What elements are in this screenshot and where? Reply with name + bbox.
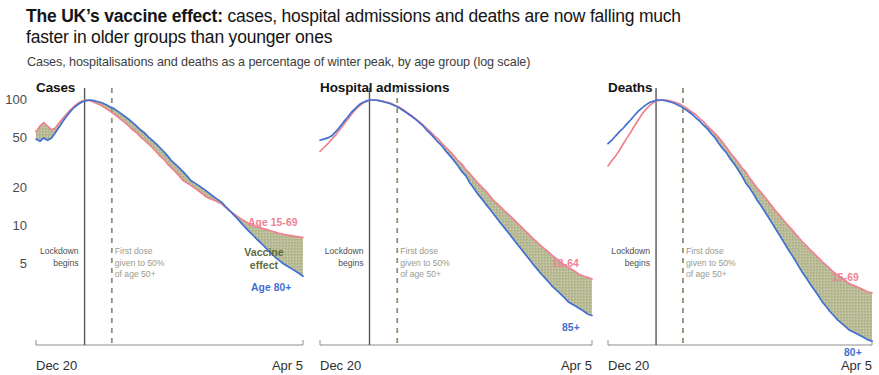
- series-label-pink: Age 15-69: [248, 217, 298, 228]
- annotation-line: Lockdown: [17, 246, 79, 258]
- chart-subtitle: Cases, hospitalisations and deaths as a …: [27, 55, 530, 69]
- panel-deaths: DeathsDec 20Apr 5LockdownbeginsFirst dos…: [600, 80, 879, 375]
- y-axis-tick-label: 50: [0, 130, 27, 145]
- annotation-line: of age 50+: [115, 269, 165, 281]
- annotation-line: given to 50%: [686, 258, 736, 270]
- annotation-line: First dose: [686, 246, 736, 258]
- y-axis-tick-label: 100: [0, 92, 27, 107]
- annotation-line: given to 50%: [400, 258, 450, 270]
- x-axis-end-label: Apr 5: [183, 358, 303, 373]
- x-axis-end-label: Apr 5: [752, 358, 872, 373]
- first-dose-annotation: First dosegiven to 50%of age 50+: [686, 246, 736, 281]
- panel-cases: Cases1005020105Dec 20Apr 5Lockdownbegins…: [0, 80, 310, 375]
- series-label-pink: 18-64: [552, 258, 579, 269]
- annotation-line: of age 50+: [400, 269, 450, 281]
- headline-lead: The UK’s vaccine effect:: [26, 6, 223, 26]
- plot-area-hospital_admissions: [310, 80, 600, 375]
- x-axis-line: [608, 340, 872, 345]
- chart-panels: Cases1005020105Dec 20Apr 5Lockdownbegins…: [0, 80, 879, 375]
- annotation-line: effect: [235, 259, 293, 272]
- lockdown-annotation: Lockdownbegins: [588, 246, 650, 269]
- annotation-line: First dose: [400, 246, 450, 258]
- y-axis-tick-label: 10: [0, 218, 27, 233]
- annotation-line: begins: [588, 258, 650, 270]
- page-title: The UK’s vaccine effect: cases, hospital…: [26, 6, 726, 48]
- series-label-pink: 15-69: [832, 272, 859, 283]
- series-label-blue: 85+: [562, 322, 580, 333]
- series-label-blue: Age 80+: [251, 282, 291, 293]
- annotation-line: begins: [17, 258, 79, 270]
- annotation-line: First dose: [115, 246, 165, 258]
- lockdown-annotation: Lockdownbegins: [17, 246, 79, 269]
- first-dose-annotation: First dosegiven to 50%of age 50+: [115, 246, 165, 281]
- annotation-line: given to 50%: [115, 258, 165, 270]
- annotation-line: begins: [302, 258, 364, 270]
- plot-area-deaths: [600, 80, 879, 375]
- x-axis-line: [36, 340, 303, 345]
- y-axis-tick-label: 20: [0, 180, 27, 195]
- vaccine-effect-band: [438, 139, 592, 315]
- lockdown-annotation: Lockdownbegins: [302, 246, 364, 269]
- annotation-line: Lockdown: [588, 246, 650, 258]
- series-label-blue: 80+: [844, 347, 862, 358]
- x-axis-line: [320, 340, 592, 345]
- x-axis-end-label: Apr 5: [472, 358, 592, 373]
- annotation-line: Lockdown: [302, 246, 364, 258]
- annotation-line: of age 50+: [686, 269, 736, 281]
- x-axis-start-label: Dec 20: [320, 358, 361, 373]
- panel-hospital_admissions: Hospital admissionsDec 20Apr 5Lockdownbe…: [310, 80, 600, 375]
- infographic-root: The UK’s vaccine effect: cases, hospital…: [0, 0, 879, 375]
- x-axis-start-label: Dec 20: [36, 358, 77, 373]
- first-dose-annotation: First dosegiven to 50%of age 50+: [400, 246, 450, 281]
- vaccine-effect-label: Vaccineeffect: [235, 246, 293, 272]
- vaccine-effect-band: [704, 122, 872, 341]
- x-axis-start-label: Dec 20: [608, 358, 649, 373]
- annotation-line: Vaccine: [235, 246, 293, 259]
